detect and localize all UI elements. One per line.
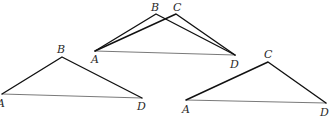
label-A-right: A (181, 103, 190, 116)
label-D-left: D (136, 100, 146, 113)
label-D-top: D (229, 58, 239, 71)
geometry-diagram: A B C D A B D A C D (0, 0, 333, 117)
path-ABD-left (2, 57, 142, 98)
label-D-right: D (319, 106, 329, 117)
label-C-top: C (173, 1, 182, 14)
label-A-top: A (90, 53, 99, 66)
path-ABD-top (95, 14, 235, 55)
label-A-left: A (0, 97, 5, 110)
path-ACD-right (186, 62, 326, 103)
triangle-ABD: A B D (0, 43, 146, 113)
label-C-right: C (264, 48, 273, 61)
label-B-left: B (56, 43, 65, 56)
label-B-top: B (150, 1, 159, 14)
segment-AD-right (186, 100, 326, 103)
path-ACD-top (95, 14, 235, 55)
triangle-ACD: A C D (181, 48, 329, 117)
segment-AD-left (2, 94, 142, 98)
combined-figure: A B C D (90, 1, 239, 71)
segment-AD-top (95, 51, 235, 55)
